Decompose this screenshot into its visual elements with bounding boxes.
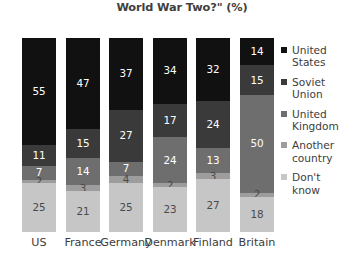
- chart-legend: UnitedStatesSovietUnionUnitedKingdomAnot…: [281, 44, 364, 203]
- bar-segment[interactable]: 11: [22, 145, 56, 166]
- bar-segment[interactable]: 24: [196, 101, 230, 148]
- bar-column[interactable]: 141550218: [240, 38, 274, 232]
- legend-item[interactable]: Don'tknow: [281, 171, 364, 196]
- bar-segment[interactable]: 34: [153, 38, 187, 104]
- x-axis-labels: USFranceGermanyDenmarkFinlandBritain: [22, 236, 274, 254]
- bar-column[interactable]: 341724223: [153, 38, 187, 232]
- legend-item-label: United: [292, 44, 364, 56]
- legend-swatch-icon: [281, 111, 287, 117]
- bar-segment-value: 17: [153, 115, 187, 126]
- bar-segment[interactable]: 15: [66, 129, 100, 158]
- bar-segment-value: 23: [153, 204, 187, 215]
- bar-segment-value: 24: [153, 155, 187, 166]
- bar-segment[interactable]: 18: [240, 197, 274, 232]
- legend-item-label: United: [292, 108, 364, 120]
- bar-segment[interactable]: 37: [109, 38, 143, 110]
- bar-segment-value: 18: [240, 209, 274, 220]
- bar-segment-value: 50: [240, 138, 274, 149]
- plot-area: 5511722547151432137277425341724223322413…: [22, 38, 274, 232]
- bar-segment[interactable]: 15: [240, 65, 274, 94]
- bar-segment[interactable]: 47: [66, 38, 100, 129]
- bar-segment[interactable]: 4: [109, 176, 143, 184]
- legend-item-label: States: [292, 56, 364, 68]
- bar-column[interactable]: 322413327: [196, 38, 230, 232]
- bar-segment-value: 14: [240, 46, 274, 57]
- x-axis-label-britain: Britain: [227, 236, 287, 250]
- legend-item-label: Union: [292, 88, 364, 100]
- legend-item[interactable]: UnitedKingdom: [281, 108, 364, 133]
- bar-segment-value: 55: [22, 86, 56, 97]
- legend-item-label: Kingdom: [292, 120, 364, 132]
- bar-segment-value: 13: [196, 155, 230, 166]
- legend-item[interactable]: UnitedStates: [281, 44, 364, 69]
- bar-segment-value: 32: [196, 64, 230, 75]
- bar-segment[interactable]: 27: [196, 179, 230, 232]
- bar-segment[interactable]: 25: [22, 183, 56, 232]
- bar-segment-value: 34: [153, 65, 187, 76]
- legend-item-label: know: [292, 184, 364, 196]
- bar-segment-value: 27: [109, 130, 143, 141]
- chart-figure: you say contributed most to the defeat o…: [0, 0, 364, 264]
- bar-segment[interactable]: 55: [22, 38, 56, 145]
- legend-item[interactable]: Anothercountry: [281, 139, 364, 164]
- bar-segment-value: 15: [240, 75, 274, 86]
- bar-segment-value: 27: [196, 200, 230, 211]
- bar-segment-value: 47: [66, 78, 100, 89]
- bar-segment[interactable]: 24: [153, 137, 187, 184]
- bar-segment[interactable]: 14: [240, 38, 274, 65]
- bar-column[interactable]: 471514321: [66, 38, 100, 232]
- bar-segment[interactable]: 32: [196, 38, 230, 101]
- bar-segment-value: 37: [109, 68, 143, 79]
- bar-segment[interactable]: 21: [66, 191, 100, 232]
- chart-title-line: World War Two?" (%): [0, 1, 364, 15]
- bar-segment-value: 25: [22, 202, 56, 213]
- legend-item[interactable]: SovietUnion: [281, 76, 364, 101]
- bar-segment-value: 15: [66, 138, 100, 149]
- legend-swatch-icon: [281, 47, 287, 53]
- bar-segment[interactable]: 50: [240, 95, 274, 193]
- bar-segment[interactable]: 23: [153, 187, 187, 232]
- legend-item-label: country: [292, 152, 364, 164]
- legend-item-label: Soviet: [292, 76, 364, 88]
- legend-item-label: Another: [292, 139, 364, 151]
- bar-segment-value: 24: [196, 119, 230, 130]
- bar-segment[interactable]: 27: [109, 110, 143, 162]
- bar-segment-value: 21: [66, 206, 100, 217]
- bar-segment[interactable]: 25: [109, 183, 143, 232]
- bar-segment-value: 25: [109, 202, 143, 213]
- legend-swatch-icon: [281, 142, 287, 148]
- bar-segment-value: 14: [66, 166, 100, 177]
- bar-segment-value: 11: [22, 150, 56, 161]
- legend-swatch-icon: [281, 79, 287, 85]
- chart-title: you say contributed most to the defeat o…: [0, 0, 364, 14]
- bar-column[interactable]: 55117225: [22, 38, 56, 232]
- legend-item-label: Don't: [292, 171, 364, 183]
- bar-column[interactable]: 37277425: [109, 38, 143, 232]
- legend-swatch-icon: [281, 174, 287, 180]
- bar-segment[interactable]: 17: [153, 104, 187, 137]
